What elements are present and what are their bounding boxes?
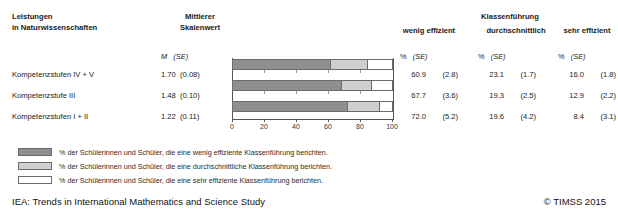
row-mean-se-0: (0.08) — [180, 70, 200, 79]
bar-row-0 — [232, 59, 393, 70]
figure-container: Leistungen in Naturwissenschaften Mittle… — [0, 0, 618, 217]
cell-avg-pct-0: 23.1 — [478, 70, 504, 79]
row-label-2: Kompetenzstufen I + II — [12, 112, 88, 121]
subheader-pct-symbol-low: % — [400, 52, 407, 61]
x-tick-20 — [264, 119, 265, 122]
subheader-mean: M (SE) — [161, 52, 231, 61]
header-leistungen: Leistungen in Naturwissenschaften — [12, 12, 162, 33]
x-ticklabel-0: 0 — [230, 123, 234, 130]
bar-row-2 — [232, 101, 393, 112]
cell-high-2: 8.4 (3.1) — [558, 112, 616, 121]
gridmark-b4 — [360, 91, 361, 94]
x-tick-80 — [360, 119, 361, 122]
stacked-bar-chart: 0 20 40 60 80 100 — [232, 58, 394, 120]
x-ticklabel-5: 100 — [386, 123, 398, 130]
legend-label-1: % der Schülerinnen und Schüler, die eine… — [59, 161, 332, 172]
x-ticklabel-4: 80 — [356, 123, 364, 130]
bar-seg-avg-2 — [347, 102, 378, 111]
cell-high-pct-1: 12.9 — [558, 91, 584, 100]
subheader-se-high: (SE) — [571, 52, 586, 61]
cell-avg-se-1: (2.5) — [506, 91, 536, 100]
legend-swatch-sehr-effizient — [18, 176, 52, 184]
cell-low-se-2: (5.2) — [428, 112, 458, 121]
gridmark-b2 — [296, 91, 297, 94]
cell-avg-1: 19.3 (2.5) — [478, 91, 536, 100]
cell-low-pct-0: 60.9 — [400, 70, 426, 79]
gridmark-b1 — [264, 91, 265, 94]
header-col-wenig-effizient: wenig effizient — [389, 26, 469, 35]
cell-high-se-2: (3.1) — [586, 112, 616, 121]
cell-avg-se-0: (1.7) — [506, 70, 536, 79]
row-mean-0: 1.70 (0.08) — [161, 70, 200, 79]
gridmark-b3 — [328, 91, 329, 94]
row-mean-se-1: (0.10) — [180, 91, 200, 100]
bar-seg-avg-0 — [330, 60, 367, 69]
x-ticklabel-1: 20 — [260, 123, 268, 130]
header-klassenfuehrung: Klassenführung — [455, 12, 565, 21]
legend-label-0: % der Schülerinnen und Schüler, die eine… — [59, 147, 328, 158]
cell-high-1: 12.9 (2.2) — [558, 91, 616, 100]
cell-low-pct-2: 72.0 — [400, 112, 426, 121]
cell-low-se-0: (2.8) — [428, 70, 458, 79]
row-mean-1: 1.48 (0.10) — [161, 91, 200, 100]
footer-source: IEA: Trends in International Mathematics… — [12, 196, 265, 207]
x-tick-60 — [328, 119, 329, 122]
bar-seg-high-0 — [367, 60, 392, 69]
cell-avg-pct-1: 19.3 — [478, 91, 504, 100]
x-tick-40 — [296, 119, 297, 122]
x-ticklabel-2: 40 — [292, 123, 300, 130]
bar-seg-low-1 — [233, 81, 341, 90]
legend-swatch-wenig-effizient — [18, 148, 52, 156]
gridmark-a2 — [296, 70, 297, 73]
legend-swatch-durchschnittlich — [18, 162, 52, 170]
subheader-pct-low: % (SE) — [400, 52, 462, 61]
bar-seg-low-2 — [233, 102, 347, 111]
cell-avg-2: 19.6 (4.2) — [478, 112, 536, 121]
row-mean-se-2: (0.11) — [180, 112, 199, 121]
subheader-pct-symbol-high: % — [558, 52, 565, 61]
footer-copyright: © TIMSS 2015 — [544, 196, 606, 207]
subheader-m-se: (SE) — [173, 52, 188, 61]
subheader-m-symbol: M — [161, 52, 167, 61]
row-label-0: Kompetenzstufen IV + V — [12, 70, 94, 79]
x-ticklabel-3: 60 — [324, 123, 332, 130]
cell-high-se-1: (2.2) — [586, 91, 616, 100]
bar-seg-low-0 — [233, 60, 330, 69]
x-axis-line — [232, 119, 394, 120]
cell-high-pct-0: 16.0 — [558, 70, 584, 79]
header-mittlerer-line1: Mittlerer — [155, 12, 245, 23]
cell-low-0: 60.9 (2.8) — [400, 70, 458, 79]
header-col-sehr-effizient: sehr effizient — [556, 26, 618, 35]
subheader-pct-high: % (SE) — [558, 52, 618, 61]
cell-low-se-1: (3.6) — [428, 91, 458, 100]
cell-high-se-0: (1.8) — [586, 70, 616, 79]
cell-high-pct-2: 8.4 — [558, 112, 584, 121]
bar-seg-high-1 — [371, 81, 392, 90]
header-leistungen-line1: Leistungen — [12, 12, 162, 23]
cell-avg-0: 23.1 (1.7) — [478, 70, 536, 79]
cell-high-0: 16.0 (1.8) — [558, 70, 616, 79]
bar-row-1 — [232, 80, 393, 91]
x-tick-100 — [392, 119, 393, 122]
cell-low-2: 72.0 (5.2) — [400, 112, 458, 121]
subheader-pct-avg: % (SE) — [478, 52, 540, 61]
header-col-durchschnittlich: durchschnittlich — [466, 26, 566, 35]
subheader-se-avg: (SE) — [491, 52, 506, 61]
header-mittlerer-line2: Skalenwert — [155, 23, 245, 34]
subheader-se-low: (SE) — [413, 52, 428, 61]
row-label-1: Kompetenzstufe III — [12, 91, 75, 100]
header-leistungen-line2: in Naturwissenschaften — [12, 23, 162, 34]
cell-avg-pct-2: 19.6 — [478, 112, 504, 121]
chart-right-border — [393, 58, 394, 120]
gridmark-a1 — [264, 70, 265, 73]
bar-seg-high-2 — [379, 102, 392, 111]
row-mean-2: 1.22 (0.11) — [161, 112, 199, 121]
bar-seg-avg-1 — [341, 81, 372, 90]
row-mean-value-0: 1.70 — [161, 70, 176, 79]
subheader-pct-symbol-avg: % — [478, 52, 485, 61]
cell-avg-se-2: (4.2) — [506, 112, 536, 121]
gridmark-a4 — [360, 70, 361, 73]
row-mean-value-2: 1.22 — [161, 112, 176, 121]
row-mean-value-1: 1.48 — [161, 91, 176, 100]
cell-low-1: 67.7 (3.6) — [400, 91, 458, 100]
